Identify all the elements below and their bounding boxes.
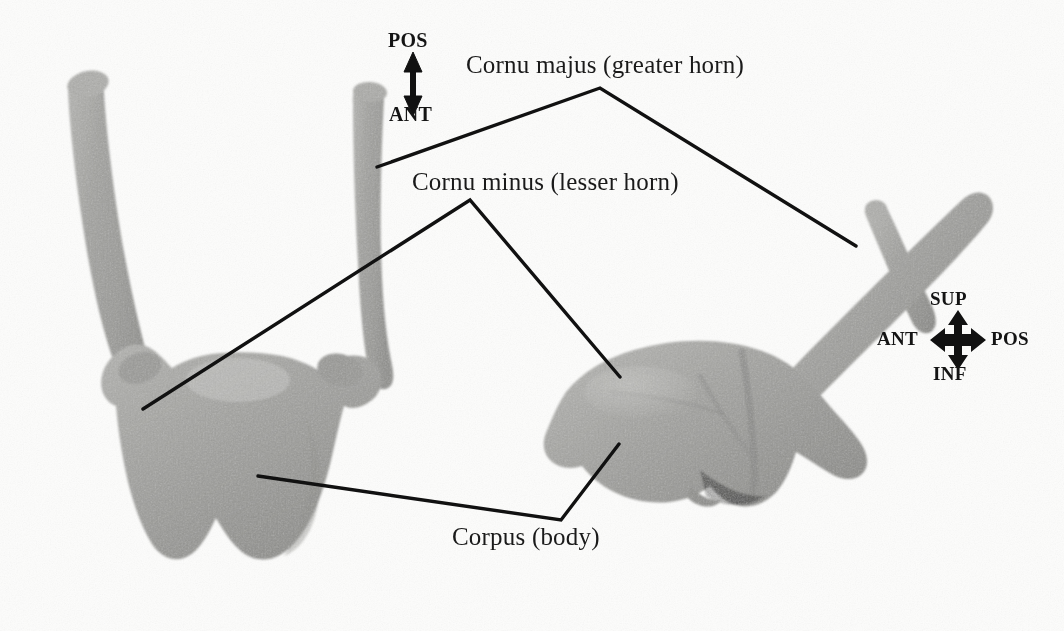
orientation-right-down-label: INF: [933, 364, 967, 383]
label-cornu-majus: Cornu majus (greater horn): [466, 52, 744, 77]
orientation-right-up-label: SUP: [930, 289, 967, 308]
lateral-view-corpus-highlight: [584, 366, 696, 418]
orientation-right-right-label: POS: [991, 329, 1029, 348]
label-cornu-minus: Cornu minus (lesser horn): [412, 169, 679, 194]
lateral-view-lesser-horn-tip: [865, 200, 887, 218]
orientation-left-up-label: POS: [388, 30, 428, 50]
label-corpus: Corpus (body): [452, 524, 600, 549]
orientation-left-down-label: ANT: [389, 104, 432, 124]
orientation-right-left-label: ANT: [877, 329, 918, 348]
anatomical-figure: Cornu majus (greater horn) Cornu minus (…: [0, 0, 1064, 631]
left-view-corpus-highlight: [186, 358, 290, 402]
